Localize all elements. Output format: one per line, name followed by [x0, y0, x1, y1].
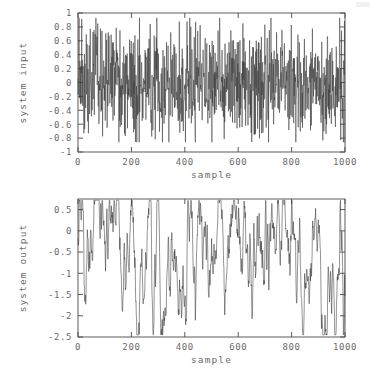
y-axis-title: system input: [17, 42, 28, 124]
y-tick-label: -0.4: [48, 106, 72, 116]
y-tick-label: -2: [60, 311, 72, 321]
y-tick-label: -0.2: [48, 92, 72, 102]
y-tick-label: -0.8: [48, 133, 72, 143]
y-tick-label: 1: [66, 8, 72, 18]
x-tick-label: 200: [122, 157, 140, 167]
y-tick-label: 0.2: [54, 64, 72, 74]
plot-frame: [78, 199, 345, 337]
x-tick-label: 600: [229, 342, 247, 352]
y-tick-label: 0: [66, 78, 72, 88]
y-tick-label: 0.6: [54, 36, 72, 46]
x-axis-title: sample: [191, 354, 232, 365]
figure-container: -1-0.8-0.6-0.4-0.200.20.40.60.8102004006…: [0, 0, 376, 374]
x-tick-label: 1000: [333, 342, 357, 352]
y-tick-label: -0.6: [48, 120, 72, 130]
series-path-system-output: [78, 200, 345, 335]
system-output-plot: -2.5-2-1.5-1-0.500.502004006008001000sam…: [0, 185, 376, 374]
x-tick-label: 400: [176, 157, 194, 167]
y-tick-label: 0: [66, 226, 72, 236]
system-input-plot: -1-0.8-0.6-0.4-0.200.20.40.60.8102004006…: [0, 0, 376, 190]
y-tick-label: 0.5: [54, 205, 72, 215]
x-axis-title: sample: [191, 169, 232, 180]
x-tick-label: 0: [75, 342, 81, 352]
x-tick-label: 1000: [333, 157, 357, 167]
chart-panel-system-output: -2.5-2-1.5-1-0.500.502004006008001000sam…: [0, 185, 376, 374]
corner-artifact: [356, 2, 370, 7]
chart-panel-system-input: -1-0.8-0.6-0.4-0.200.20.40.60.8102004006…: [0, 0, 376, 190]
x-tick-label: 0: [75, 157, 81, 167]
x-tick-label: 200: [122, 342, 140, 352]
y-tick-label: -1: [60, 147, 72, 157]
y-tick-label: -2.5: [48, 332, 72, 342]
x-tick-label: 600: [229, 157, 247, 167]
y-tick-label: 0.8: [54, 22, 72, 32]
series-path-system-input: [78, 18, 345, 142]
y-tick-label: -0.5: [48, 247, 72, 257]
y-tick-label: 0.4: [54, 50, 72, 60]
y-tick-label: -1: [60, 269, 72, 279]
x-tick-label: 800: [283, 157, 301, 167]
x-tick-label: 400: [176, 342, 194, 352]
x-tick-label: 800: [283, 342, 301, 352]
y-axis-title: system output: [17, 224, 28, 313]
y-tick-label: -1.5: [48, 290, 72, 300]
